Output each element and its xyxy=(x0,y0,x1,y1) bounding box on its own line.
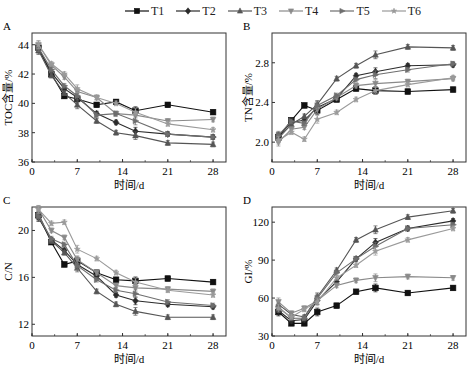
x-tick-label: 14 xyxy=(357,165,369,177)
panel-a-toc: A071421283638404244时间/dTOC含量/% xyxy=(0,20,235,192)
x-tick-label: 28 xyxy=(448,165,460,177)
legend-label: T6 xyxy=(408,4,421,19)
plot-frame xyxy=(272,33,466,162)
x-axis-label: 时间/d xyxy=(354,353,385,365)
y-tick-label: 2.4 xyxy=(255,96,269,108)
legend-marker-icon xyxy=(228,6,252,16)
x-tick-label: 21 xyxy=(402,339,413,351)
legend-label: T1 xyxy=(151,4,164,19)
y-tick-label: 20 xyxy=(18,224,30,236)
legend-item-t3: T3 xyxy=(228,4,267,19)
series-t3 xyxy=(276,207,456,319)
x-tick-label: 21 xyxy=(402,165,413,177)
x-tick-label: 14 xyxy=(117,339,129,351)
legend-marker-icon xyxy=(330,6,354,16)
y-tick-label: 16 xyxy=(18,271,30,283)
legend-item-t1: T1 xyxy=(125,4,164,19)
y-axis-label: C/N xyxy=(2,262,14,280)
x-tick-label: 21 xyxy=(162,165,173,177)
panel-label: A xyxy=(3,20,11,32)
legend-label: T2 xyxy=(202,4,215,19)
legend-marker-icon xyxy=(176,6,200,16)
panel-label: C xyxy=(3,194,10,206)
x-tick-label: 28 xyxy=(208,339,220,351)
y-axis-label: GI/% xyxy=(242,260,254,284)
y-axis-label: TOC含量/% xyxy=(1,69,14,125)
y-tick-label: 2.0 xyxy=(255,136,269,148)
chart-legend: T1T2T3T4T5T6 xyxy=(125,4,421,18)
panel-label: B xyxy=(243,20,250,32)
legend-marker-icon xyxy=(279,6,303,16)
plot-frame xyxy=(32,33,226,162)
y-tick-label: 12 xyxy=(18,318,29,330)
panel-b-tn: B071421282.02.42.8时间/dTN含量/% xyxy=(240,20,475,192)
x-tick-label: 7 xyxy=(315,339,321,351)
x-tick-label: 0 xyxy=(29,339,35,351)
legend-marker-icon xyxy=(382,6,406,16)
legend-label: T5 xyxy=(356,4,369,19)
series-t4 xyxy=(36,41,216,124)
x-tick-label: 0 xyxy=(29,165,35,177)
x-tick-label: 28 xyxy=(208,165,220,177)
y-tick-label: 44 xyxy=(18,39,30,51)
x-tick-label: 0 xyxy=(269,165,275,177)
y-tick-label: 38 xyxy=(18,127,30,139)
y-tick-label: 60 xyxy=(258,292,270,304)
legend-item-t6: T6 xyxy=(382,4,421,19)
y-tick-label: 36 xyxy=(18,156,30,168)
legend-item-t5: T5 xyxy=(330,4,369,19)
y-tick-label: 30 xyxy=(258,330,270,342)
x-tick-label: 7 xyxy=(75,339,81,351)
x-tick-label: 21 xyxy=(162,339,173,351)
y-tick-label: 42 xyxy=(18,68,29,80)
x-tick-label: 14 xyxy=(117,165,129,177)
panel-c-cn-ratio: C07142128121620时间/dC/N xyxy=(0,194,235,366)
x-axis-label: 时间/d xyxy=(114,179,145,191)
legend-marker-icon xyxy=(125,6,149,16)
series-t1 xyxy=(276,86,456,141)
y-tick-label: 40 xyxy=(18,97,30,109)
legend-item-t4: T4 xyxy=(279,4,318,19)
y-tick-label: 2.8 xyxy=(255,57,269,69)
x-tick-label: 0 xyxy=(269,339,275,351)
legend-label: T3 xyxy=(254,4,267,19)
y-tick-label: 120 xyxy=(253,216,270,228)
legend-label: T4 xyxy=(305,4,318,19)
series-t2 xyxy=(276,61,456,140)
y-axis-label: TN含量/% xyxy=(241,73,254,122)
panel-label: D xyxy=(243,194,251,206)
x-tick-label: 7 xyxy=(75,165,81,177)
series-t6 xyxy=(276,225,456,319)
series-t5 xyxy=(36,213,216,309)
x-tick-label: 7 xyxy=(315,165,321,177)
series-t4 xyxy=(276,76,456,146)
legend-item-t2: T2 xyxy=(176,4,215,19)
panel-d-gi: D07142128306090120时间/dGI/% xyxy=(240,194,475,366)
y-tick-label: 90 xyxy=(258,254,270,266)
x-tick-label: 14 xyxy=(357,339,369,351)
x-axis-label: 时间/d xyxy=(114,353,145,365)
x-tick-label: 28 xyxy=(448,339,460,351)
x-axis-label: 时间/d xyxy=(354,179,385,191)
